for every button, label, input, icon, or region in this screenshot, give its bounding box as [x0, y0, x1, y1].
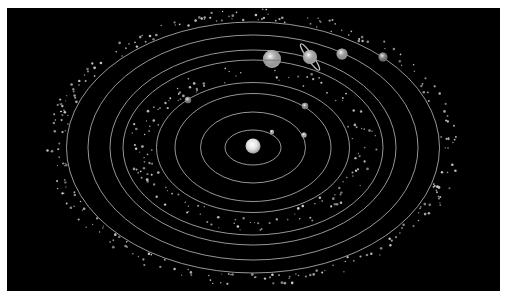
belt-particle	[102, 227, 104, 229]
belt-particle	[389, 244, 391, 246]
belt-particle	[441, 171, 443, 173]
belt-particle	[210, 279, 212, 281]
belt-particle	[363, 128, 365, 130]
belt-particle	[447, 171, 449, 173]
belt-particle	[185, 202, 187, 204]
belt-particle	[355, 170, 357, 172]
belt-particle	[177, 88, 179, 90]
belt-particle	[152, 38, 155, 41]
belt-particle	[440, 136, 442, 138]
belt-particle	[345, 93, 347, 95]
belt-particle	[70, 206, 73, 209]
belt-particle	[240, 72, 242, 74]
belt-particle	[297, 207, 300, 210]
belt-particle	[274, 70, 276, 72]
belt-particle	[93, 66, 96, 69]
belt-particle	[64, 181, 66, 183]
belt-particle	[137, 172, 139, 174]
belt-particle	[78, 80, 80, 82]
belt-particle	[114, 233, 117, 236]
belt-particle	[135, 147, 137, 149]
belt-particle	[330, 31, 331, 32]
belt-particle	[86, 227, 87, 228]
belt-particle	[413, 64, 415, 66]
belt-particle	[239, 229, 240, 230]
belt-particle	[147, 110, 150, 113]
belt-particle	[182, 95, 185, 98]
belt-particle	[445, 103, 447, 105]
belt-particle	[151, 149, 153, 151]
belt-particle	[226, 283, 228, 285]
belt-particle	[335, 100, 337, 102]
belt-particle	[454, 169, 457, 172]
belt-particle	[115, 51, 117, 53]
belt-particle	[332, 19, 334, 21]
belt-particle	[276, 218, 278, 220]
belt-particle	[151, 163, 153, 165]
belt-particle	[228, 71, 230, 73]
belt-particle	[128, 43, 130, 45]
belt-particle	[57, 148, 59, 150]
belt-particle	[80, 201, 81, 202]
belt-particle	[190, 271, 193, 274]
venus-shade	[301, 132, 306, 137]
belt-particle	[361, 36, 364, 39]
belt-particle	[75, 100, 78, 103]
belt-particle	[157, 109, 158, 110]
belt-particle	[250, 222, 251, 223]
belt-particle	[438, 196, 439, 197]
belt-particle	[321, 272, 323, 274]
belt-particle	[312, 273, 315, 276]
belt-particle	[438, 198, 440, 200]
belt-particle	[391, 239, 393, 241]
belt-particle	[360, 110, 362, 112]
belt-particle	[210, 223, 212, 225]
belt-particle	[126, 241, 127, 242]
belt-particle	[412, 225, 414, 227]
belt-particle	[74, 97, 76, 99]
belt-particle	[307, 17, 309, 19]
planet-earth: Earth	[302, 103, 308, 109]
belt-particle	[179, 98, 181, 100]
belt-particle	[454, 139, 456, 141]
belt-particle	[148, 252, 150, 254]
belt-particle	[179, 23, 181, 25]
belt-particle	[58, 143, 60, 145]
belt-particle	[281, 16, 284, 19]
belt-particle	[447, 120, 449, 122]
belt-particle	[423, 203, 426, 206]
mercury-shade	[270, 130, 274, 134]
belt-particle	[222, 11, 223, 12]
belt-particle	[194, 19, 197, 22]
belt-particle	[55, 119, 56, 120]
belt-particle	[157, 124, 159, 126]
belt-particle	[347, 126, 349, 128]
belt-particle	[371, 130, 373, 132]
belt-particle	[305, 275, 307, 277]
belt-particle	[164, 203, 166, 205]
belt-particle	[59, 98, 61, 100]
belt-particle	[159, 107, 161, 109]
belt-particle	[319, 197, 321, 199]
belt-particle	[151, 174, 153, 176]
belt-particle	[57, 165, 58, 166]
belt-particle	[168, 100, 169, 101]
belt-particle	[221, 273, 222, 274]
belt-particle	[368, 129, 371, 132]
belt-particle	[224, 67, 226, 69]
belt-particle	[275, 20, 277, 22]
belt-particle	[291, 282, 294, 285]
belt-particle	[341, 30, 342, 31]
belt-particle	[433, 186, 435, 188]
mars-shade	[185, 97, 191, 103]
belt-particle	[439, 204, 441, 206]
belt-particle	[314, 203, 316, 205]
belt-particle	[303, 85, 305, 87]
belt-particle	[340, 201, 343, 204]
uranus-shade	[337, 49, 348, 60]
belt-particle	[443, 110, 446, 113]
belt-particle	[65, 130, 66, 131]
belt-particle	[66, 95, 67, 96]
belt-particle	[278, 274, 280, 276]
belt-particle	[85, 80, 87, 82]
